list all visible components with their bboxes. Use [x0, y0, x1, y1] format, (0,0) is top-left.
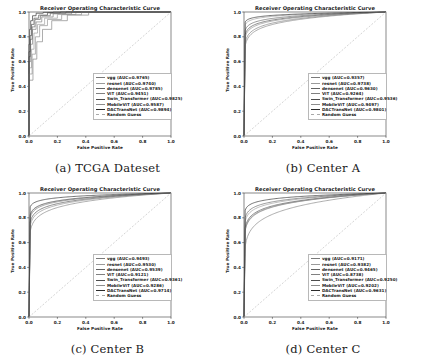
legend-swatch: [311, 83, 320, 84]
legend-swatch: [96, 104, 105, 105]
legend-swatch: [96, 93, 105, 94]
legend: vgg (AUC=0.9765)resnet (AUC=0.9740)dense…: [93, 73, 173, 120]
legend-swatch: [311, 109, 320, 110]
legend: vgg (AUC=0.9357)resnet (AUC=0.9738)dense…: [308, 73, 388, 120]
x-tick-label: 1.0: [378, 320, 394, 325]
x-axis-label: False Positive Rate: [244, 145, 386, 150]
legend-swatch: [96, 109, 105, 110]
legend-swatch: [311, 290, 320, 291]
legend-swatch: [96, 88, 105, 89]
legend-swatch: [311, 274, 320, 275]
panel-caption-a: (a) TCGA Dateset: [0, 161, 215, 175]
panel-c: Receiver Operating Characteristic Curve0…: [0, 181, 215, 362]
legend-swatch: [311, 269, 320, 270]
roc-plot-a: Receiver Operating Characteristic Curve0…: [0, 0, 215, 181]
y-tick-label: 1.0: [13, 10, 26, 15]
legend-swatch: [311, 114, 320, 115]
y-tick-label: 1.0: [13, 191, 26, 196]
x-tick-label: 0.2: [49, 320, 65, 325]
x-tick-label: 1.0: [163, 320, 179, 325]
panel-d: Receiver Operating Characteristic Curve0…: [215, 181, 431, 362]
y-tick-label: 0.0: [228, 315, 241, 320]
legend: vgg (AUC=0.9171)resnet (AUC=0.9382)dense…: [308, 254, 388, 301]
x-axis-label: False Positive Rate: [29, 326, 171, 331]
panel-caption-b: (b) Center A: [215, 161, 431, 175]
legend-swatch: [96, 99, 105, 100]
legend-swatch: [96, 295, 105, 296]
plot-title: Receiver Operating Characteristic Curve: [29, 186, 171, 192]
y-tick-label: 1.0: [228, 10, 241, 15]
legend-swatch: [96, 269, 105, 270]
y-tick-label: 1.0: [228, 191, 241, 196]
legend-swatch: [96, 114, 105, 115]
legend-label: Random Guess: [322, 293, 356, 298]
legend-item: Random Guess: [96, 293, 170, 298]
y-tick-label: 0.0: [13, 134, 26, 139]
y-tick-label: 0.0: [228, 134, 241, 139]
legend-swatch: [96, 280, 105, 281]
x-tick-label: 0.2: [264, 320, 280, 325]
legend-swatch: [96, 290, 105, 291]
x-tick-label: 1.0: [163, 139, 179, 144]
y-axis-label: True Positive Rate: [225, 48, 230, 92]
y-tick-label: 0.2: [13, 290, 26, 295]
legend-label: Random Guess: [107, 293, 141, 298]
legend-swatch: [96, 83, 105, 84]
x-tick-label: 0.2: [49, 139, 65, 144]
y-axis-label: True Positive Rate: [225, 229, 230, 273]
legend-swatch: [96, 264, 105, 265]
roc-plot-b: Receiver Operating Characteristic Curve0…: [215, 0, 431, 181]
legend-swatch: [96, 285, 105, 286]
x-tick-label: 0.4: [293, 139, 309, 144]
legend-swatch: [311, 88, 320, 89]
x-tick-label: 0.0: [21, 320, 37, 325]
legend-swatch: [311, 264, 320, 265]
plot-title: Receiver Operating Characteristic Curve: [244, 186, 386, 192]
legend: vgg (AUC=0.9493)resnet (AUC=0.9530)dense…: [93, 254, 173, 301]
legend-item: Random Guess: [311, 112, 385, 117]
y-tick-label: 0.2: [228, 290, 241, 295]
y-tick-label: 0.8: [228, 34, 241, 39]
legend-item: Random Guess: [96, 112, 170, 117]
x-axis-label: False Positive Rate: [244, 326, 386, 331]
legend-swatch: [96, 77, 105, 78]
legend-swatch: [311, 99, 320, 100]
panel-caption-c: (c) Center B: [0, 342, 215, 356]
x-tick-label: 0.8: [135, 320, 151, 325]
x-tick-label: 0.8: [350, 320, 366, 325]
legend-label: Random Guess: [107, 112, 141, 117]
x-tick-label: 0.4: [78, 320, 94, 325]
x-tick-label: 0.6: [321, 320, 337, 325]
x-tick-label: 0.0: [236, 320, 252, 325]
legend-swatch: [311, 77, 320, 78]
y-tick-label: 0.2: [13, 109, 26, 114]
x-tick-label: 0.6: [321, 139, 337, 144]
x-tick-label: 0.4: [78, 139, 94, 144]
x-axis-label: False Positive Rate: [29, 145, 171, 150]
panel-a: Receiver Operating Characteristic Curve0…: [0, 0, 215, 181]
legend-item: Random Guess: [311, 293, 385, 298]
y-axis-label: True Positive Rate: [10, 48, 15, 92]
x-tick-label: 0.8: [350, 139, 366, 144]
y-tick-label: 0.0: [13, 315, 26, 320]
y-tick-label: 0.8: [13, 215, 26, 220]
legend-swatch: [311, 280, 320, 281]
legend-swatch: [96, 258, 105, 259]
panel-b: Receiver Operating Characteristic Curve0…: [215, 0, 431, 181]
legend-swatch: [311, 93, 320, 94]
legend-swatch: [311, 258, 320, 259]
x-tick-label: 0.6: [106, 139, 122, 144]
x-tick-label: 1.0: [378, 139, 394, 144]
legend-label: Random Guess: [322, 112, 356, 117]
y-tick-label: 0.2: [228, 109, 241, 114]
x-tick-label: 0.0: [236, 139, 252, 144]
roc-plot-c: Receiver Operating Characteristic Curve0…: [0, 181, 215, 362]
legend-swatch: [96, 274, 105, 275]
y-axis-label: True Positive Rate: [10, 229, 15, 273]
x-tick-label: 0.6: [106, 320, 122, 325]
y-tick-label: 0.8: [13, 34, 26, 39]
x-tick-label: 0.4: [293, 320, 309, 325]
roc-plot-d: Receiver Operating Characteristic Curve0…: [215, 181, 431, 362]
x-tick-label: 0.0: [21, 139, 37, 144]
legend-swatch: [311, 285, 320, 286]
